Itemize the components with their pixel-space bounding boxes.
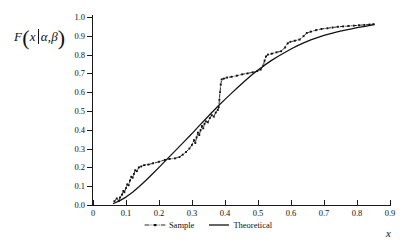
data-point-marker — [179, 156, 181, 158]
data-point-marker — [169, 158, 171, 160]
y-axis-label-function: F — [14, 29, 22, 44]
data-point-marker — [306, 32, 308, 34]
data-point-marker — [209, 117, 211, 119]
data-point-marker — [129, 180, 131, 182]
data-point-marker — [226, 77, 228, 79]
x-tick-label: 0.4 — [210, 208, 240, 218]
conditional-bar-icon — [38, 29, 39, 44]
data-point-marker — [347, 25, 349, 27]
data-point-marker — [236, 75, 238, 77]
data-point-marker — [326, 27, 328, 29]
data-point-marker — [185, 151, 187, 153]
data-point-marker — [158, 161, 160, 163]
data-point-marker — [123, 191, 125, 193]
data-point-marker — [174, 157, 176, 159]
data-point-marker — [114, 200, 116, 202]
series-line — [114, 24, 373, 201]
legend-label: Sample — [169, 220, 195, 230]
data-point-marker — [363, 24, 365, 26]
series-theoretical — [113, 25, 374, 204]
data-point-marker — [284, 47, 286, 49]
data-point-marker — [342, 25, 344, 27]
data-point-marker — [218, 99, 220, 101]
data-point-marker — [134, 169, 136, 171]
data-point-marker — [198, 134, 200, 136]
data-point-marker — [303, 35, 305, 37]
data-point-marker — [246, 72, 248, 74]
data-point-marker — [119, 197, 121, 199]
data-point-marker — [320, 28, 322, 30]
data-point-marker — [337, 26, 339, 28]
data-point-marker — [136, 170, 138, 172]
data-point-marker — [215, 112, 217, 114]
x-tick-label: 0.6 — [276, 208, 306, 218]
y-tick-label-text: 0.3 — [63, 145, 85, 153]
data-point-marker — [299, 39, 301, 41]
data-point-marker — [202, 127, 204, 129]
data-point-marker — [264, 60, 266, 62]
chart-figure: F(xα,β) 0.00.10.20.30.40.50.60.70.80.91.… — [0, 0, 416, 248]
data-point-marker — [138, 166, 140, 168]
x-tick-label: 0.8 — [342, 208, 372, 218]
y-tick-mark — [87, 205, 93, 206]
data-point-marker — [191, 144, 193, 146]
x-tick-label: 0 — [78, 208, 108, 218]
x-tick-label: 0.2 — [144, 208, 174, 218]
data-point-marker — [294, 40, 296, 42]
data-point-marker — [204, 123, 206, 125]
y-tick-label-text: 0.4 — [63, 126, 85, 134]
data-point-marker — [211, 114, 213, 116]
data-point-marker — [267, 54, 269, 56]
data-point-marker — [152, 162, 154, 164]
data-point-marker — [193, 139, 195, 141]
data-point-marker — [196, 136, 198, 138]
data-point-marker — [219, 91, 221, 93]
data-point-marker — [287, 42, 289, 44]
data-point-marker — [310, 31, 312, 33]
series-canvas — [93, 17, 390, 205]
data-point-marker — [221, 78, 223, 80]
legend-dashdot-line-icon — [144, 221, 166, 229]
data-point-marker — [315, 29, 317, 31]
data-point-marker — [265, 56, 267, 58]
x-tick-label: 0.7 — [309, 208, 339, 218]
paren-open-icon: ( — [22, 25, 30, 50]
x-tick-label: 0.9 — [375, 208, 405, 218]
y-axis-label-beta: β — [51, 29, 58, 44]
data-point-marker — [207, 121, 209, 123]
y-tick-label-text: 0.9 — [63, 32, 85, 40]
data-point-marker — [358, 24, 360, 26]
y-axis-label-variable: x — [30, 29, 36, 44]
data-point-marker — [231, 76, 233, 78]
data-point-marker — [143, 164, 145, 166]
x-axis-line — [92, 205, 391, 206]
data-point-marker — [182, 154, 184, 156]
chart-legend: SampleTheoretical — [0, 218, 416, 230]
data-point-marker — [271, 53, 273, 55]
x-tick-mark — [390, 200, 391, 205]
data-point-marker — [132, 177, 134, 179]
y-tick-label-text: 0.2 — [63, 163, 85, 171]
data-point-marker — [197, 132, 199, 134]
data-point-marker — [121, 194, 123, 196]
y-axis-label-alpha: α — [41, 29, 48, 44]
legend-item-sample: Sample — [144, 219, 195, 230]
y-tick-label-text: 0.8 — [63, 51, 85, 59]
data-point-marker — [213, 116, 215, 118]
y-tick-label-text: 1.0 — [63, 13, 85, 21]
data-point-marker — [194, 142, 196, 144]
data-point-marker — [147, 164, 149, 166]
y-tick-label-text: 0.7 — [63, 69, 85, 77]
legend-solid-line-icon — [208, 221, 230, 229]
data-point-marker — [188, 148, 190, 150]
legend-item-theoretical: Theoretical — [208, 219, 272, 230]
data-point-marker — [241, 73, 243, 75]
x-tick-label: 0.5 — [243, 208, 273, 218]
data-point-marker — [332, 27, 334, 29]
data-point-marker — [220, 84, 222, 86]
data-point-marker — [201, 125, 203, 127]
data-point-marker — [205, 120, 207, 122]
data-point-marker — [276, 51, 278, 53]
y-axis-label: F(xα,β) — [14, 25, 65, 51]
x-tick-label: 0.1 — [111, 208, 141, 218]
